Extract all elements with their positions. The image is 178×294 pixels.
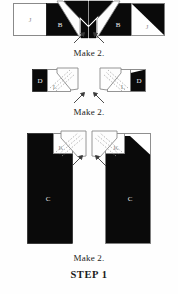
label-k-right: K [113, 144, 118, 152]
label-l-right: L [121, 83, 125, 91]
arrow-pair-row-3 [72, 156, 106, 167]
label-j-right: J [146, 23, 149, 31]
label-b-left: B [58, 21, 63, 29]
label-b-right: B [116, 21, 121, 29]
unit-2-right: L D [100, 68, 146, 92]
unit-3-right: K C [92, 131, 151, 244]
label-k-left: K [58, 144, 63, 152]
diagram-sheet: J B B J [0, 0, 178, 294]
label-c-left: C [46, 195, 51, 203]
row-1-graphic: J B B J [0, 0, 178, 294]
label-d-left: D [37, 77, 42, 85]
step-label: STEP 1 [0, 269, 178, 280]
label-j-left: J [29, 16, 32, 24]
unit-2-left: D L [33, 68, 79, 92]
caption-row-2: Make 2. [0, 107, 178, 117]
label-d-right: D [136, 77, 141, 85]
caption-row-1: Make 2. [0, 48, 178, 58]
arrow-pair-row-2 [74, 93, 104, 104]
unit-3-left: C K [28, 131, 87, 244]
unit-1-right: B J [89, 1, 165, 38]
caption-row-3: Make 2. [0, 253, 178, 263]
label-c-right: C [128, 195, 133, 203]
label-l-left: L [53, 83, 57, 91]
unit-1-left: J B [14, 1, 89, 38]
